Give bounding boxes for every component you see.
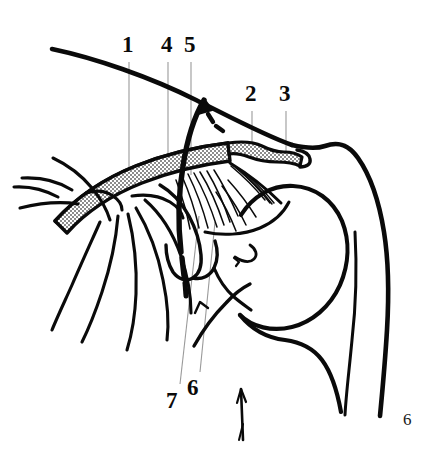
label-2: 2 (245, 82, 257, 105)
label-3: 3 (279, 82, 291, 105)
label-6: 6 (187, 376, 199, 399)
label-5: 5 (184, 33, 196, 56)
anatomy-figure: 1 4 5 2 3 6 7 6 (0, 0, 425, 459)
humerus-surgical-neck (240, 315, 341, 412)
anatomy-illustration (0, 0, 425, 459)
incision-line-lower-dash-1 (182, 258, 184, 276)
scapula-glenoid-edge (214, 268, 251, 310)
label-7: 7 (166, 389, 178, 412)
incision-dash-a (208, 114, 213, 122)
rib-3 (14, 187, 58, 197)
label-1: 1 (122, 33, 134, 56)
incision-dash-b (216, 126, 223, 131)
vessel-3 (82, 216, 118, 342)
axilla-notch (235, 245, 256, 261)
vessel-4 (127, 214, 136, 350)
vessel-5 (136, 208, 168, 340)
leader-line-6 (200, 222, 215, 372)
incision-line-lower-dash-2 (185, 283, 186, 296)
figure-corner-number: 6 (403, 411, 412, 428)
incision-line-main (179, 100, 204, 252)
label-4: 4 (161, 33, 173, 56)
